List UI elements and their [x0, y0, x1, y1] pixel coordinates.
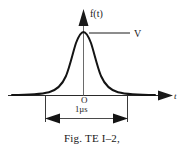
- x-axis-label: t: [174, 92, 177, 101]
- x-axis-arrowhead-icon: [158, 91, 173, 101]
- y-axis-arrowhead-icon: [79, 9, 89, 26]
- pulse-width-label: 1µs: [75, 105, 87, 114]
- pulse-waveform-figure: [0, 0, 184, 152]
- y-axis-label: f(t): [90, 9, 103, 19]
- dimension-left-arrowhead-icon: [45, 114, 60, 124]
- pulse-width-dimension: [45, 114, 128, 124]
- figure-caption: Fig. TE I–2,: [0, 132, 184, 144]
- y-axis: [79, 9, 89, 96]
- figure-container: f(t) V O t 1µs Fig. TE I–2,: [0, 0, 184, 152]
- dimension-right-arrowhead-icon: [113, 114, 128, 124]
- peak-amplitude-label: V: [134, 29, 141, 39]
